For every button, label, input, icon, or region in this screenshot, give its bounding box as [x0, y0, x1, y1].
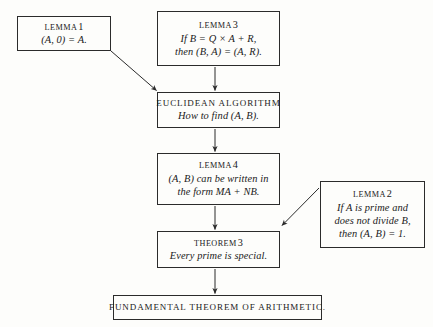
node-lemma-2-line-2: does not divide B, — [334, 214, 410, 227]
node-lemma-2[interactable]: LEMMA2 If A is prime and does not divide… — [320, 181, 425, 248]
node-lemma-3-number: 3 — [232, 19, 238, 30]
node-theorem-3-number: 3 — [237, 237, 243, 248]
node-lemma-2-line-1: If A is prime and — [337, 201, 408, 214]
node-lemma-4-line-2: the form MA + NB. — [177, 185, 259, 198]
node-theorem-3-header: THEOREM3 — [194, 237, 243, 250]
node-lemma-4-number: 4 — [232, 159, 238, 170]
node-lemma-4-header: LEMMA4 — [199, 159, 238, 172]
edge-lemma1-to-euclidean — [111, 51, 157, 91]
node-euclidean-algorithm[interactable]: EUCLIDEAN ALGORITHM How to find (A, B). — [157, 92, 280, 128]
flowchart-diagram: LEMMA1 (A, 0) = A. LEMMA3 If B = Q × A +… — [0, 0, 433, 327]
node-lemma-1[interactable]: LEMMA1 (A, 0) = A. — [17, 16, 111, 51]
node-euclidean-algorithm-header: EUCLIDEAN ALGORITHM — [156, 98, 280, 109]
node-lemma-2-line-3: then (A, B) = 1. — [339, 227, 406, 240]
node-lemma-1-number: 1 — [77, 21, 83, 32]
node-lemma-3-header: LEMMA3 — [199, 19, 238, 32]
node-lemma-4-line-1: (A, B) can be written in — [169, 172, 269, 185]
node-lemma-4[interactable]: LEMMA4 (A, B) can be written in the form… — [157, 153, 280, 205]
node-fundamental-theorem[interactable]: FUNDAMENTAL THEOREM OF ARITHMETIC. — [113, 295, 322, 320]
node-euclidean-algorithm-line-1: How to find (A, B). — [178, 109, 259, 122]
node-lemma-1-header: LEMMA1 — [45, 21, 84, 34]
node-lemma-1-line-1: (A, 0) = A. — [41, 33, 87, 46]
node-fundamental-theorem-header: FUNDAMENTAL THEOREM OF ARITHMETIC. — [109, 302, 326, 313]
node-theorem-3[interactable]: THEOREM3 Every prime is special. — [157, 231, 280, 268]
node-lemma-3[interactable]: LEMMA3 If B = Q × A + R, then (B, A) = (… — [157, 11, 280, 66]
node-lemma-3-line-2: then (B, A) = (A, R). — [175, 45, 262, 58]
node-lemma-3-line-1: If B = Q × A + R, — [180, 32, 256, 45]
edge-lemma2-to-theorem3 — [282, 188, 319, 226]
node-theorem-3-line-1: Every prime is special. — [170, 249, 268, 262]
node-lemma-2-header: LEMMA2 — [353, 188, 392, 201]
node-lemma-2-number: 2 — [386, 188, 392, 199]
